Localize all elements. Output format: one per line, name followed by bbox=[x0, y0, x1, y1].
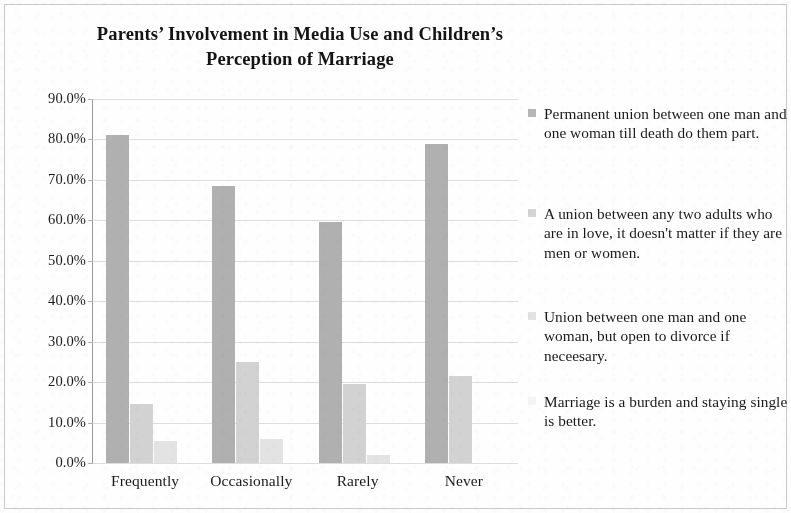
bar-rarely-series-3[interactable] bbox=[367, 455, 390, 463]
gridline bbox=[93, 180, 518, 181]
y-axis-tick bbox=[88, 301, 93, 302]
legend-item-label: Permanent union between one man and one … bbox=[544, 105, 787, 141]
bar-rarely-series-1[interactable] bbox=[319, 222, 342, 463]
gridline bbox=[93, 139, 518, 140]
y-axis-tick bbox=[88, 463, 93, 464]
legend-item-label: Marriage is a burden and staying single … bbox=[544, 393, 787, 429]
bar-rarely-series-2[interactable] bbox=[343, 384, 366, 463]
legend-item-label: Union between one man and one woman, but… bbox=[544, 308, 746, 364]
x-axis-label-occasionally: Occasionally bbox=[198, 472, 304, 490]
legend-swatch-icon bbox=[528, 209, 536, 217]
y-axis-tick-label: 80.0% bbox=[8, 131, 86, 145]
bar-frequently-series-2[interactable] bbox=[130, 404, 153, 463]
y-axis-tick bbox=[88, 180, 93, 181]
chart-title-line-2: Perception of Marriage bbox=[60, 47, 540, 72]
bar-occasionally-series-1[interactable] bbox=[212, 186, 235, 463]
bar-occasionally-series-3[interactable] bbox=[260, 439, 283, 463]
bar-never-series-2[interactable] bbox=[449, 376, 472, 463]
chart-title-line-1: Parents’ Involvement in Media Use and Ch… bbox=[60, 22, 540, 47]
plot-area bbox=[92, 99, 518, 464]
gridline bbox=[93, 463, 518, 464]
legend-swatch-icon bbox=[528, 109, 536, 117]
y-axis-tick bbox=[88, 382, 93, 383]
legend-item-4[interactable]: Marriage is a burden and staying single … bbox=[528, 392, 791, 431]
y-axis-tick-label: 0.0% bbox=[8, 455, 86, 469]
y-axis-tick-label: 90.0% bbox=[8, 91, 86, 105]
legend-item-3[interactable]: Union between one man and one woman, but… bbox=[528, 307, 791, 365]
y-axis-tick bbox=[88, 139, 93, 140]
page-title: Parents’ Involvement in Media Use and Ch… bbox=[60, 22, 540, 72]
bar-occasionally-series-2[interactable] bbox=[236, 362, 259, 463]
y-axis-tick-label: 50.0% bbox=[8, 253, 86, 267]
bar-never-series-1[interactable] bbox=[425, 144, 448, 464]
y-axis-tick bbox=[88, 261, 93, 262]
gridline bbox=[93, 301, 518, 302]
gridline bbox=[93, 99, 518, 100]
gridline bbox=[93, 261, 518, 262]
x-axis-label-frequently: Frequently bbox=[92, 472, 198, 490]
legend-swatch-icon bbox=[528, 312, 536, 320]
y-axis-tick-label: 70.0% bbox=[8, 172, 86, 186]
legend-item-2[interactable]: A union between any two adults who are i… bbox=[528, 204, 791, 262]
y-axis-tick bbox=[88, 342, 93, 343]
x-axis-label-never: Never bbox=[411, 472, 517, 490]
bar-frequently-series-1[interactable] bbox=[106, 135, 129, 463]
y-axis-tick-label: 10.0% bbox=[8, 415, 86, 429]
gridline bbox=[93, 342, 518, 343]
y-axis-tick-label: 40.0% bbox=[8, 293, 86, 307]
legend-item-1[interactable]: Permanent union between one man and one … bbox=[528, 104, 791, 143]
chart-page: Parents’ Involvement in Media Use and Ch… bbox=[0, 0, 791, 513]
gridline bbox=[93, 220, 518, 221]
y-axis-tick-label: 20.0% bbox=[8, 374, 86, 388]
legend-swatch-icon bbox=[528, 397, 536, 405]
y-axis-tick bbox=[88, 220, 93, 221]
y-axis-tick bbox=[88, 99, 93, 100]
y-axis-tick bbox=[88, 423, 93, 424]
x-axis-label-rarely: Rarely bbox=[305, 472, 411, 490]
y-axis-tick-label: 60.0% bbox=[8, 212, 86, 226]
bar-frequently-series-3[interactable] bbox=[154, 441, 177, 463]
y-axis-tick-label: 30.0% bbox=[8, 334, 86, 348]
legend-item-label: A union between any two adults who are i… bbox=[544, 205, 782, 261]
